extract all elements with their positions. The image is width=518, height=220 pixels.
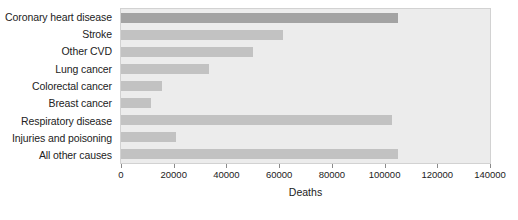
axis-tick-label: 20000 bbox=[160, 169, 186, 180]
plot-area bbox=[120, 8, 491, 164]
bar-row bbox=[121, 77, 490, 94]
category-label: Colorectal cancer bbox=[32, 80, 112, 92]
category-label: Other CVD bbox=[62, 45, 112, 57]
bar-row bbox=[121, 43, 490, 60]
axis-tick-mark bbox=[174, 164, 175, 168]
category-axis: Coronary heart disease Stroke Other CVD … bbox=[0, 8, 116, 164]
axis-tick-mark bbox=[279, 164, 280, 168]
bar bbox=[121, 30, 283, 40]
bar-row bbox=[121, 112, 490, 129]
bar-row bbox=[121, 26, 490, 43]
axis-tick-mark bbox=[332, 164, 333, 168]
axis-tick-label: 0 bbox=[118, 169, 123, 180]
category-label: Stroke bbox=[82, 28, 112, 40]
category-label: Coronary heart disease bbox=[5, 11, 112, 23]
axis-tick-mark bbox=[490, 164, 491, 168]
bar bbox=[121, 132, 176, 142]
category-label: Lung cancer bbox=[55, 63, 112, 75]
axis-tick-mark bbox=[437, 164, 438, 168]
bar-chart: Coronary heart disease Stroke Other CVD … bbox=[0, 0, 518, 220]
axis-tick-label: 100000 bbox=[369, 169, 401, 180]
axis-title-deaths: Deaths bbox=[120, 186, 491, 198]
value-axis: 020000400006000080000100000120000140000 bbox=[120, 164, 491, 186]
bar-row bbox=[121, 9, 490, 26]
bar bbox=[121, 149, 398, 159]
category-label: Respiratory disease bbox=[21, 115, 112, 127]
bar bbox=[121, 81, 162, 91]
bar-row bbox=[121, 60, 490, 77]
category-label: Injuries and poisoning bbox=[12, 132, 112, 144]
axis-tick-label: 80000 bbox=[319, 169, 345, 180]
axis-tick-mark bbox=[121, 164, 122, 168]
bar-row bbox=[121, 95, 490, 112]
axis-tick-label: 120000 bbox=[421, 169, 453, 180]
bar bbox=[121, 98, 151, 108]
bar-row bbox=[121, 146, 490, 163]
axis-tick-mark bbox=[385, 164, 386, 168]
bars-layer bbox=[121, 9, 490, 163]
bar bbox=[121, 115, 392, 125]
bar-row bbox=[121, 129, 490, 146]
bar bbox=[121, 47, 253, 57]
axis-tick-label: 40000 bbox=[213, 169, 239, 180]
bar bbox=[121, 64, 209, 74]
axis-tick-label: 60000 bbox=[266, 169, 292, 180]
bar bbox=[121, 13, 398, 23]
category-label: All other causes bbox=[39, 149, 112, 161]
axis-tick-label: 140000 bbox=[474, 169, 506, 180]
axis-tick-mark bbox=[226, 164, 227, 168]
category-label: Breast cancer bbox=[49, 97, 112, 109]
